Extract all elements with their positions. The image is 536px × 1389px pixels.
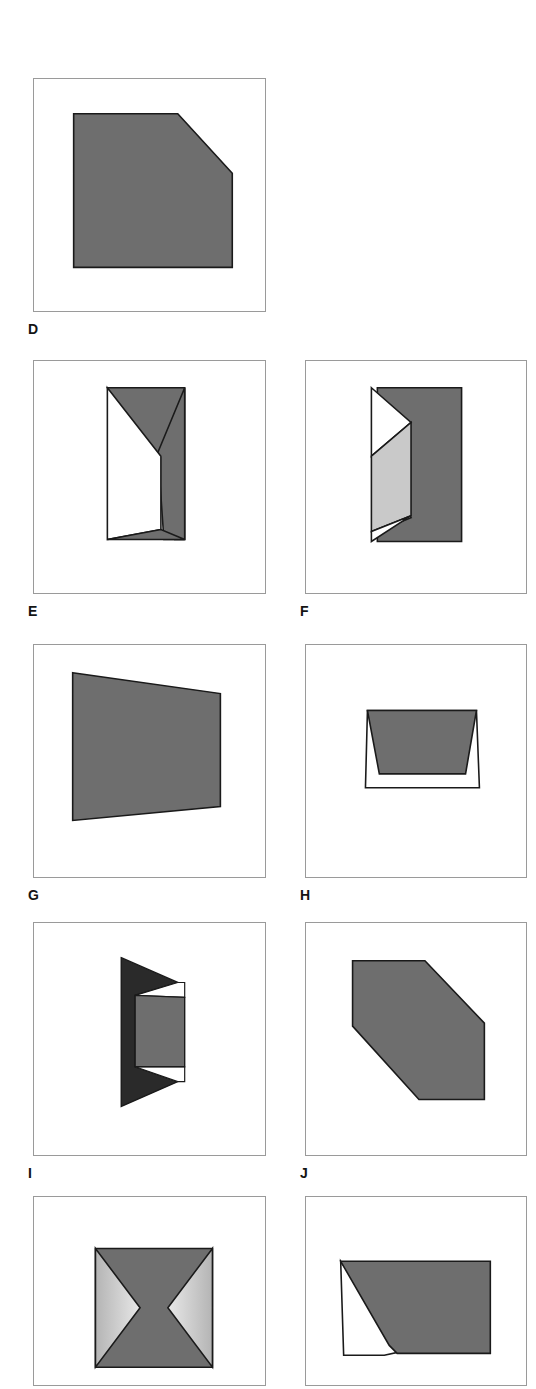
panel-j-label: J <box>300 1166 308 1180</box>
panel-i-drawing <box>34 923 265 1155</box>
panel-j-chamfered-hexagon <box>353 961 485 1100</box>
panel-i-mid-grey-front-face <box>135 995 185 1066</box>
panel-j <box>305 922 527 1156</box>
panel-l <box>305 1196 527 1386</box>
panel-e-label: E <box>28 604 38 618</box>
panel-h-drawing <box>306 645 526 877</box>
panel-d-label: D <box>28 322 38 336</box>
panel-i <box>33 922 266 1156</box>
panel-d <box>33 78 266 312</box>
figure-root: DEFGHIJ <box>0 0 536 1389</box>
panel-d-drawing <box>34 79 265 311</box>
panel-k-drawing <box>34 1197 265 1385</box>
panel-h-dark-inner-trapezoid <box>367 710 476 773</box>
panel-e-drawing <box>34 361 265 593</box>
panel-g <box>33 644 266 878</box>
panel-h <box>305 644 527 878</box>
panel-i-label: I <box>28 1166 32 1180</box>
panel-f-label: F <box>300 604 309 618</box>
panel-j-drawing <box>306 923 526 1155</box>
panel-e <box>33 360 266 594</box>
panel-f-drawing <box>306 361 526 593</box>
panel-d-chamfered-pentagon <box>74 114 233 268</box>
panel-g-drawing <box>34 645 265 877</box>
panel-h-label: H <box>300 888 310 902</box>
panel-g-label: G <box>28 888 39 902</box>
panel-f <box>305 360 527 594</box>
panel-k <box>33 1196 266 1386</box>
panel-l-drawing <box>306 1197 526 1385</box>
panel-g-skewed-quadrilateral <box>73 673 221 821</box>
